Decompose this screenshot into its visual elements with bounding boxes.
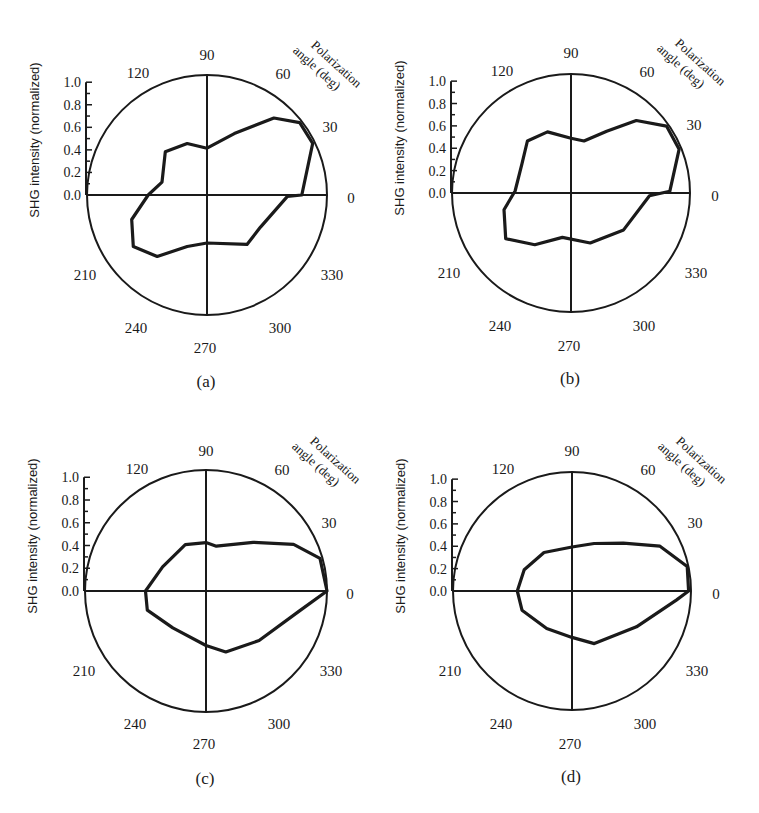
radial-tick-label: 0.4 [64, 143, 82, 158]
angle-label-90: 90 [564, 45, 579, 61]
angle-label-210: 210 [438, 265, 461, 281]
radial-tick-label: 0.2 [429, 164, 447, 179]
shg-intensity-curve [132, 118, 313, 257]
angle-label-120: 120 [127, 65, 150, 81]
angle-label-90: 90 [200, 47, 215, 63]
shg-intensity-curve [517, 543, 688, 644]
angle-label-300: 300 [268, 716, 291, 732]
polarization-angle-label: Polarizationangle (deg) [290, 31, 365, 103]
angle-label-0: 0 [712, 586, 720, 602]
angle-label-240: 240 [125, 320, 148, 336]
angle-label-240: 240 [490, 716, 513, 732]
radial-tick-label: 0.8 [64, 98, 82, 113]
angle-label-270: 270 [558, 338, 581, 354]
angle-label-60: 60 [275, 462, 290, 478]
radial-tick-label: 0.8 [62, 493, 80, 508]
radial-tick-label: 0.8 [430, 495, 448, 510]
polarization-angle-label: Polarizationangle (deg) [655, 427, 730, 499]
radial-tick-label: 0.0 [430, 584, 448, 599]
angle-label-0: 0 [346, 586, 354, 602]
angle-label-120: 120 [491, 63, 514, 79]
angle-label-330: 330 [321, 267, 344, 283]
y-axis-label: SHG intensity (normalized) [25, 458, 40, 613]
panel-caption: (c) [196, 769, 215, 788]
panel-caption: (a) [197, 372, 216, 391]
angle-label-330: 330 [686, 663, 709, 679]
radial-tick-label: 0.6 [429, 119, 447, 134]
panel-b: 0.00.20.40.60.81.0SHG intensity (normali… [392, 29, 729, 388]
panel-c: 0.00.20.40.60.81.0SHG intensity (normali… [25, 427, 364, 788]
angle-label-240: 240 [124, 716, 147, 732]
angle-label-270: 270 [559, 736, 582, 752]
radial-tick-label: 0.8 [429, 97, 447, 112]
angle-label-30: 30 [687, 117, 702, 133]
angle-label-30: 30 [688, 515, 703, 531]
polarization-angle-label: Polarizationangle (deg) [654, 29, 729, 101]
y-axis-label: SHG intensity (normalized) [27, 62, 42, 217]
radial-tick-label: 0.2 [430, 562, 448, 577]
panel-caption: (b) [560, 369, 580, 388]
angle-label-90: 90 [565, 443, 580, 459]
y-axis-label: SHG intensity (normalized) [393, 458, 408, 613]
radial-tick-label: 1.0 [430, 472, 448, 487]
radial-tick-label: 0.4 [429, 141, 447, 156]
angle-label-0: 0 [711, 188, 719, 204]
shg-intensity-curve [146, 542, 328, 652]
angle-label-270: 270 [193, 736, 216, 752]
radial-tick-label: 0.0 [62, 584, 80, 599]
angle-label-120: 120 [492, 461, 515, 477]
y-axis-label: SHG intensity (normalized) [392, 60, 407, 215]
panel-d: 0.00.20.40.60.81.0SHG intensity (normali… [393, 427, 730, 786]
angle-label-30: 30 [322, 515, 337, 531]
radial-tick-label: 0.4 [430, 539, 448, 554]
radial-tick-label: 0.6 [64, 120, 82, 135]
angle-label-210: 210 [74, 267, 97, 283]
angle-label-60: 60 [640, 64, 655, 80]
radial-tick-label: 1.0 [64, 75, 82, 90]
angle-label-300: 300 [269, 320, 292, 336]
angle-label-60: 60 [641, 462, 656, 478]
polar-chart-figure: 0.00.20.40.60.81.0SHG intensity (normali… [0, 0, 759, 813]
angle-label-270: 270 [194, 340, 217, 356]
angle-label-330: 330 [320, 663, 343, 679]
radial-tick-label: 0.0 [429, 186, 447, 201]
radial-tick-label: 0.2 [64, 165, 82, 180]
radial-tick-label: 0.2 [62, 561, 80, 576]
radial-tick-label: 0.4 [62, 539, 80, 554]
shg-intensity-curve [504, 121, 679, 245]
radial-tick-label: 0.6 [430, 517, 448, 532]
angle-label-210: 210 [439, 663, 462, 679]
panel-caption: (d) [561, 767, 581, 786]
radial-tick-label: 1.0 [62, 470, 80, 485]
panel-a: 0.00.20.40.60.81.0SHG intensity (normali… [27, 31, 365, 391]
angle-label-300: 300 [633, 318, 656, 334]
angle-label-0: 0 [347, 190, 355, 206]
radial-tick-label: 0.0 [64, 188, 82, 203]
angle-label-210: 210 [73, 663, 96, 679]
angle-label-30: 30 [323, 119, 338, 135]
angle-label-330: 330 [685, 265, 708, 281]
angle-label-60: 60 [276, 66, 291, 82]
radial-tick-label: 0.6 [62, 516, 80, 531]
radial-tick-label: 1.0 [429, 74, 447, 89]
angle-label-300: 300 [634, 716, 657, 732]
polarization-angle-label: Polarizationangle (deg) [289, 427, 364, 499]
angle-label-120: 120 [126, 461, 149, 477]
angle-label-240: 240 [489, 318, 512, 334]
angle-label-90: 90 [199, 443, 214, 459]
